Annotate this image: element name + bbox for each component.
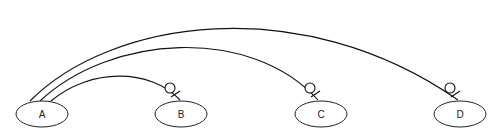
node-c-label: C (317, 109, 324, 120)
node-d-label: D (456, 109, 463, 120)
marker-b-icon (165, 83, 180, 97)
marker-d-icon (445, 83, 460, 97)
node-a-label: A (39, 109, 46, 120)
node-b-label: B (178, 109, 185, 120)
er-diagram: A B C D (0, 0, 500, 135)
edge-a-b (51, 76, 180, 101)
edge-a-d (30, 28, 458, 101)
edge-a-c (40, 48, 318, 101)
